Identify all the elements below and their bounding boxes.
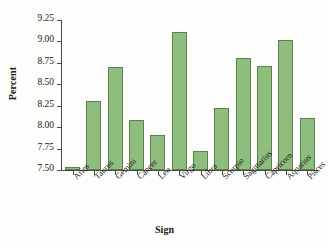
- x-axis-label: Sign: [0, 224, 329, 235]
- bar-slot: [147, 20, 168, 170]
- bar[interactable]: [236, 58, 251, 170]
- y-tick-label: 8.50: [18, 77, 54, 87]
- y-tick-label: 9.25: [18, 13, 54, 23]
- chart-title: [0, 0, 329, 1]
- bar-slot: [126, 20, 147, 170]
- bar-slot: [62, 20, 83, 170]
- bar-slot: [211, 20, 232, 170]
- y-tick-label: 8.25: [18, 99, 54, 109]
- bar-slot: [105, 20, 126, 170]
- bar-slot: [297, 20, 318, 170]
- bar-series: [62, 20, 318, 170]
- y-axis-label: Percent: [7, 54, 18, 114]
- bar[interactable]: [172, 32, 187, 170]
- y-tick-label: 8.75: [18, 56, 54, 66]
- bar[interactable]: [108, 67, 123, 170]
- bar-slot: [275, 20, 296, 170]
- bar-slot: [169, 20, 190, 170]
- bar[interactable]: [214, 108, 229, 170]
- bar[interactable]: [86, 101, 101, 170]
- y-tick-label: 8.00: [18, 120, 54, 130]
- bar-slot: [83, 20, 104, 170]
- plot-area: 7.507.758.008.258.508.759.009.25: [62, 20, 318, 170]
- bar-slot: [190, 20, 211, 170]
- bar-chart: Percent 7.507.758.008.258.508.759.009.25…: [0, 0, 329, 246]
- bar-slot: [254, 20, 275, 170]
- y-tick-label: 9.00: [18, 34, 54, 44]
- bar-slot: [233, 20, 254, 170]
- y-tick-label: 7.75: [18, 142, 54, 152]
- y-tick-label: 7.50: [18, 163, 54, 173]
- y-tick-mark: [57, 170, 62, 171]
